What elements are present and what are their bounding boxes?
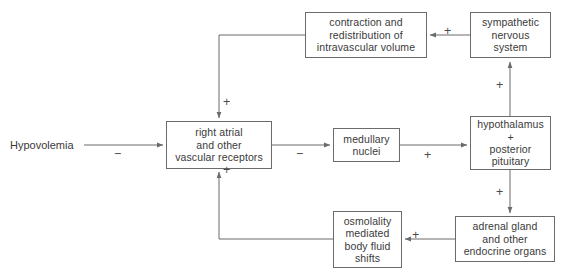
edge-sign-hypothalamus-to-adrenal: + [496, 186, 503, 199]
node-line: mediated [346, 227, 390, 239]
node-adrenal-gland-endocrine-organs: adrenal gland and other endocrine organs [455, 216, 555, 262]
node-right-atrial-receptors: right atrial and other vascular receptor… [166, 121, 272, 169]
edge-sign-medullary-to-hypothalamus: + [424, 149, 431, 162]
edge-osmolality-to-receptors [219, 172, 333, 239]
edge-sign-contraction-to-receptors: + [223, 96, 230, 109]
node-line: intravascular volume [317, 41, 415, 53]
edge-sign-receptors-to-medullary: − [296, 148, 303, 161]
node-line: vascular receptors [175, 151, 263, 163]
node-line: endocrine organs [464, 245, 547, 257]
node-line: system [494, 41, 528, 53]
node-medullary-nuclei: medullary nuclei [333, 128, 400, 162]
node-line: + [507, 131, 513, 143]
edge-sign-hypovolemia-to-receptors: − [114, 148, 121, 161]
node-line: shifts [355, 252, 380, 264]
node-line: and other [482, 233, 527, 245]
node-line: medullary [343, 133, 389, 145]
node-line: sympathetic [482, 16, 539, 28]
node-contraction-redistribution: contraction and redistribution of intrav… [305, 12, 427, 58]
node-line: contraction and [329, 16, 402, 28]
node-line: right atrial [195, 126, 242, 138]
node-line: hypothalamus [477, 118, 544, 130]
node-line: nuclei [352, 145, 380, 157]
edge-sign-adrenal-to-osmolality: + [412, 229, 419, 242]
node-line: adrenal gland [473, 220, 538, 232]
node-line: posterior [490, 143, 532, 155]
node-osmolality-body-fluid-shifts: osmolality mediated body fluid shifts [333, 211, 402, 268]
flow-diagram: Hypovolemia contraction and redistributi… [0, 0, 568, 276]
node-line: nervous [491, 29, 529, 41]
node-hypothalamus-posterior-pituitary: hypothalamus + posterior pituitary [470, 116, 551, 170]
node-line: redistribution of [329, 29, 403, 41]
hypovolemia-label: Hypovolemia [10, 139, 74, 152]
edge-sign-hypothalamus-to-sympathetic: + [496, 79, 503, 92]
node-line: osmolality [344, 215, 392, 227]
edge-contraction-to-receptors [219, 35, 305, 118]
node-line: pituitary [492, 155, 530, 167]
node-line: body fluid [345, 240, 391, 252]
edge-sign-sympathetic-to-contraction: + [444, 25, 451, 38]
node-line: and other [196, 139, 241, 151]
node-sympathetic-nervous-system: sympathetic nervous system [470, 12, 551, 58]
edge-sign-osmolality-to-receptors: + [223, 164, 230, 177]
